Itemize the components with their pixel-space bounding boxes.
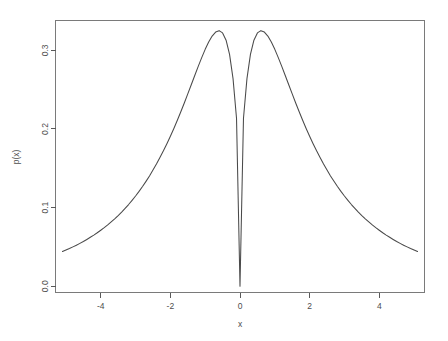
x-tick-label: 4 (377, 301, 382, 311)
chart-figure: 0.00.10.20.3 -4-2024 x p(x) (0, 0, 448, 341)
y-axis: 0.00.10.20.3 (41, 44, 56, 292)
plot-frame (56, 21, 425, 293)
x-axis: -4-2024 (97, 293, 382, 311)
plot-canvas: 0.00.10.20.3 -4-2024 x p(x) (0, 0, 448, 341)
x-tick-label: -4 (97, 301, 105, 311)
x-tick-label: 0 (238, 301, 243, 311)
y-tick-label: 0.1 (41, 201, 51, 213)
x-tick-label: 2 (307, 301, 312, 311)
y-tick-label: 0.2 (41, 123, 51, 135)
y-axis-label: p(x) (11, 150, 21, 165)
x-axis-label: x (238, 319, 243, 329)
y-tick-label: 0.0 (41, 280, 51, 292)
y-tick-label: 0.3 (41, 44, 51, 56)
data-curve-group (62, 31, 417, 287)
series-line-p-of-x (62, 31, 417, 287)
x-tick-label: -2 (167, 301, 175, 311)
plot-frame-group (56, 21, 425, 293)
